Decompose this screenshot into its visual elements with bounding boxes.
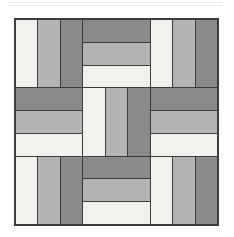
quilt-unit-r1c2 [151,88,217,155]
quilt-stripe-medium[interactable] [173,157,194,224]
dotted-separator [10,2,222,6]
quilt-stripe-dark[interactable] [61,20,82,87]
quilt-stripe-dark[interactable] [151,88,217,110]
quilt-stripe-medium[interactable] [106,88,127,155]
quilt-unit-r0c1 [83,20,149,87]
quilt-unit-r0c0 [16,20,82,87]
quilt-unit-r2c1 [83,157,149,224]
quilt-stripe-medium[interactable] [173,20,194,87]
quilt-stripe-light[interactable] [151,157,172,224]
quilt-stripe-light[interactable] [83,202,149,224]
quilt-stripe-medium[interactable] [83,43,149,65]
quilt-stripe-dark[interactable] [196,20,217,87]
quilt-stripe-medium[interactable] [16,111,82,133]
quilt-stripe-light[interactable] [151,20,172,87]
quilt-stripe-medium[interactable] [83,179,149,201]
quilt-unit-r0c2 [151,20,217,87]
quilt-stripe-dark[interactable] [16,88,82,110]
quilt-stripe-light[interactable] [16,134,82,156]
quilt-stripe-dark[interactable] [83,20,149,42]
quilt-unit-r1c1 [83,88,149,155]
canvas [0,0,234,237]
quilt-stripe-dark[interactable] [83,157,149,179]
quilt-stripe-light[interactable] [151,134,217,156]
quilt-stripe-light[interactable] [16,157,37,224]
quilt-stripe-medium[interactable] [151,111,217,133]
quilt-unit-r2c0 [16,157,82,224]
quilt-stripe-light[interactable] [16,20,37,87]
quilt-block-preview [14,18,219,226]
quilt-stripe-medium[interactable] [38,157,59,224]
quilt-unit-r1c0 [16,88,82,155]
quilt-stripe-light[interactable] [83,88,104,155]
quilt-stripe-dark[interactable] [61,157,82,224]
quilt-stripe-medium[interactable] [38,20,59,87]
quilt-stripe-dark[interactable] [128,88,149,155]
quilt-stripe-dark[interactable] [196,157,217,224]
quilt-stripe-light[interactable] [83,66,149,88]
quilt-unit-r2c2 [151,157,217,224]
